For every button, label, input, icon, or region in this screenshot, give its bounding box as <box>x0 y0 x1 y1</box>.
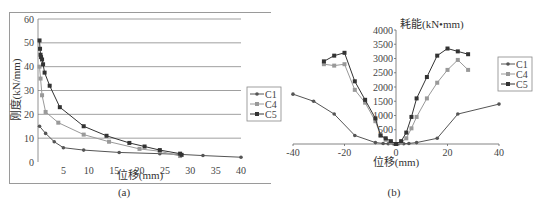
data-point <box>40 93 44 97</box>
data-point <box>312 99 316 103</box>
y-tick-label: 3000 <box>373 53 393 64</box>
legend-marker-c1 <box>506 62 510 66</box>
y-tick-label: 20 <box>24 109 34 120</box>
data-point <box>435 54 439 58</box>
panel-b-energy-chart: 5001000150020002500300035004000-40-20020… <box>286 25 532 159</box>
data-point <box>373 116 377 120</box>
x-tick-label: 5 <box>61 165 66 176</box>
data-point <box>456 58 460 62</box>
panel-a-y-axis-label: 刚度(kN/mm) <box>9 58 23 121</box>
x-tick-label: -20 <box>338 147 351 158</box>
data-point <box>389 139 393 143</box>
data-point <box>82 133 86 137</box>
data-point <box>384 136 388 140</box>
x-tick-label: 40 <box>494 147 504 158</box>
legend-marker-c5 <box>255 112 259 116</box>
data-point <box>456 112 460 116</box>
data-point <box>39 77 43 81</box>
data-point <box>201 154 205 158</box>
data-point <box>466 68 470 72</box>
data-point <box>353 88 357 92</box>
data-point <box>409 115 413 119</box>
data-point <box>52 140 56 144</box>
data-point <box>435 137 439 141</box>
y-tick-label: 4000 <box>373 25 393 36</box>
series-line-c5 <box>396 49 468 144</box>
data-point <box>374 141 378 145</box>
data-point <box>105 134 109 138</box>
data-point <box>409 126 413 130</box>
x-tick-label: 40 <box>236 165 246 176</box>
series-line-c1 <box>40 126 241 157</box>
data-point <box>62 146 66 150</box>
data-point <box>40 58 44 62</box>
data-point <box>41 62 45 66</box>
x-tick-label: -40 <box>286 147 299 158</box>
data-point <box>394 142 398 146</box>
panel-b-x-axis-label: 位移(mm) <box>373 155 420 169</box>
y-tick-label: 3500 <box>373 39 393 50</box>
x-tick-label: 30 <box>185 165 195 176</box>
data-point <box>415 115 419 119</box>
x-tick-label: 10 <box>84 165 94 176</box>
data-point <box>343 62 347 66</box>
data-point <box>38 38 42 42</box>
y-tick-label: 30 <box>24 85 34 96</box>
data-point <box>415 141 419 145</box>
data-point <box>466 52 470 56</box>
data-point <box>107 140 111 144</box>
panel-a-x-axis-label: 位移(mm) <box>117 168 164 182</box>
series-line-c5 <box>40 40 182 154</box>
y-tick-label: 2500 <box>373 67 393 78</box>
y-tick-label: 0 <box>29 157 34 168</box>
data-point <box>127 141 131 145</box>
data-point <box>381 142 385 146</box>
data-point <box>353 134 357 138</box>
x-tick-label: 20 <box>443 147 453 158</box>
data-point <box>353 79 357 83</box>
data-point <box>117 151 121 155</box>
panel-b-y-axis-label: 耗能(kN•mm) <box>400 17 464 31</box>
data-point <box>58 105 62 109</box>
data-point <box>404 131 408 135</box>
y-tick-label: 1500 <box>373 96 393 107</box>
legend-label-c5: C5 <box>516 79 528 90</box>
legend-marker-c5 <box>506 82 510 86</box>
data-point <box>446 47 450 51</box>
data-point <box>456 49 460 53</box>
data-point <box>404 136 408 140</box>
data-point <box>332 64 336 68</box>
y-tick-label: 50 <box>24 37 34 48</box>
data-point <box>44 132 48 136</box>
data-point <box>379 133 383 137</box>
data-point <box>82 148 86 152</box>
data-point <box>38 124 42 128</box>
data-point <box>239 155 243 159</box>
data-point <box>399 139 403 143</box>
y-tick-label: 2000 <box>373 82 393 93</box>
data-point <box>425 96 429 100</box>
data-point <box>446 68 450 72</box>
data-point <box>56 121 60 125</box>
legend-marker-c4 <box>506 72 510 76</box>
data-point <box>48 84 52 88</box>
data-point <box>497 102 501 106</box>
series-line-c1 <box>396 104 499 144</box>
data-point <box>44 110 48 114</box>
data-point <box>138 147 142 151</box>
data-point <box>180 153 184 157</box>
legend-label-c5: C5 <box>265 109 277 120</box>
y-tick-label: 40 <box>24 61 34 72</box>
panel-a-caption: (a) <box>118 186 131 199</box>
data-point <box>363 98 367 102</box>
panel-a-stiffness-chart: 0102030405060510152025303540C1C4C5 <box>24 14 281 177</box>
data-point <box>43 71 47 75</box>
data-point <box>332 112 336 116</box>
data-point <box>143 145 147 149</box>
charts-canvas: 0102030405060510152025303540C1C4C5 位移(mm… <box>0 0 541 207</box>
data-point <box>82 124 86 128</box>
data-point <box>291 92 295 96</box>
data-point <box>158 148 162 152</box>
data-point <box>38 65 42 69</box>
legend-marker-c1 <box>255 92 259 96</box>
